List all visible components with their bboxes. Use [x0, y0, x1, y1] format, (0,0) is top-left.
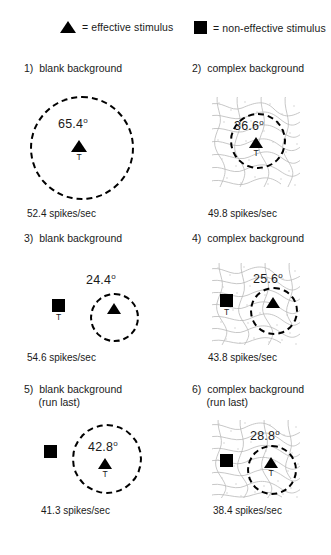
triangle-icon [71, 140, 87, 152]
panel-2-angle: 36.6o [234, 118, 264, 133]
legend-non-effective-label: = non-effective stimulus [213, 22, 326, 34]
panel-1-angle-value: 65.4 [58, 117, 83, 131]
degree-symbol: o [278, 271, 283, 280]
panel-1-target-label: T [76, 153, 81, 162]
panel-5-scene: 42.8o T [40, 420, 160, 498]
panel-1-angle: 65.4o [58, 116, 88, 131]
panel-6-scene: 28.8o T [212, 420, 302, 500]
panel-3-angle: 24.4o [86, 272, 116, 287]
square-icon [220, 294, 233, 307]
triangle-icon [264, 457, 278, 468]
degree-symbol: o [275, 428, 280, 437]
legend-item-effective: = effective stimulus [60, 21, 173, 33]
panel-5-angle-value: 42.8 [88, 440, 113, 454]
panel-4-title: 4) complex background [192, 232, 304, 245]
panel-5-rate: 41.3 spikes/sec [41, 505, 110, 516]
panel-5-title: 5) blank background (run last) [24, 383, 122, 409]
square-icon [44, 445, 57, 458]
degree-symbol: o [83, 116, 88, 125]
triangle-icon [266, 297, 280, 308]
panel-2-rate: 49.8 spikes/sec [208, 208, 277, 219]
panel-2-target-label: T [253, 149, 258, 158]
legend: = effective stimulus = non-effective sti… [0, 21, 331, 41]
panel-4-triangle-stimulus [266, 297, 280, 308]
panel-6-triangle-stimulus: T [264, 457, 278, 478]
degree-symbol: o [113, 439, 118, 448]
panel-3-scene: 24.4o T [48, 272, 158, 340]
panel-1-triangle-stimulus: T [71, 140, 87, 162]
triangle-icon [60, 21, 76, 33]
panel-2-triangle-stimulus: T [249, 137, 263, 158]
panel-6-target-label: T [268, 469, 273, 478]
panel-4-target-label: T [224, 308, 229, 317]
figure-canvas: = effective stimulus = non-effective sti… [0, 0, 331, 555]
triangle-icon [107, 303, 121, 314]
panel-4-rate: 43.8 spikes/sec [208, 352, 277, 363]
panel-2-title: 2) complex background [192, 62, 304, 75]
panel-4-square-stimulus: T [220, 294, 233, 317]
receptive-field-circle [250, 287, 298, 335]
degree-symbol: o [259, 118, 264, 127]
panel-5-triangle-stimulus: T [98, 458, 112, 479]
panel-6-angle-value: 28.8 [250, 429, 275, 443]
panel-3-rate: 54.6 spikes/sec [27, 352, 96, 363]
panel-6-title: 6) complex background (run last) [192, 383, 304, 409]
panel-5-target-label: T [102, 470, 107, 479]
triangle-icon [98, 458, 112, 469]
panel-2-angle-value: 36.6 [234, 119, 259, 133]
legend-item-non-effective: = non-effective stimulus [194, 21, 326, 34]
receptive-field-circle [90, 293, 139, 342]
square-icon [52, 299, 65, 312]
panel-4-angle: 25.6o [253, 271, 283, 286]
panel-1-title: 1) blank background [24, 62, 122, 75]
panel-3-target-label: T [56, 313, 61, 322]
panel-3-angle-value: 24.4 [86, 273, 111, 287]
degree-symbol: o [111, 272, 116, 281]
legend-effective-label: = effective stimulus [82, 21, 173, 33]
panel-6-rate: 38.4 spikes/sec [213, 505, 282, 516]
panel-1-rate: 52.4 spikes/sec [27, 208, 96, 219]
panel-1-scene: 65.4o T [22, 92, 142, 208]
square-icon [194, 21, 207, 34]
panel-5-angle: 42.8o [88, 439, 118, 454]
panel-3-triangle-stimulus [107, 303, 121, 314]
panel-4-scene: 25.6o T [212, 263, 302, 345]
triangle-icon [249, 137, 263, 148]
square-icon [220, 454, 233, 467]
panel-6-angle: 28.8o [250, 428, 280, 443]
panel-4-angle-value: 25.6 [253, 272, 278, 286]
panel-2-scene: 36.6o T [212, 97, 302, 189]
panel-5-square-stimulus [44, 445, 57, 458]
panel-3-square-stimulus: T [52, 299, 65, 322]
panel-6-square-stimulus [220, 454, 233, 467]
panel-3-title: 3) blank background [24, 232, 122, 245]
